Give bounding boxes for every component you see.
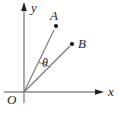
y-axis-label: y (29, 0, 37, 15)
angle-theta-label: θ (42, 56, 48, 70)
ray-oa (24, 30, 54, 92)
x-axis-label: x (107, 84, 114, 99)
y-axis-arrow-icon (21, 2, 27, 11)
x-axis (4, 89, 104, 95)
point-b-dot (70, 42, 74, 46)
vector-angle-diagram: y x O A B θ (0, 0, 119, 117)
point-a-dot (54, 24, 58, 28)
point-a-label: A (49, 8, 58, 23)
point-b-label: B (78, 36, 86, 51)
x-axis-arrow-icon (95, 89, 104, 95)
diagram-canvas: y x O A B θ (0, 0, 119, 117)
origin-label: O (7, 92, 17, 107)
